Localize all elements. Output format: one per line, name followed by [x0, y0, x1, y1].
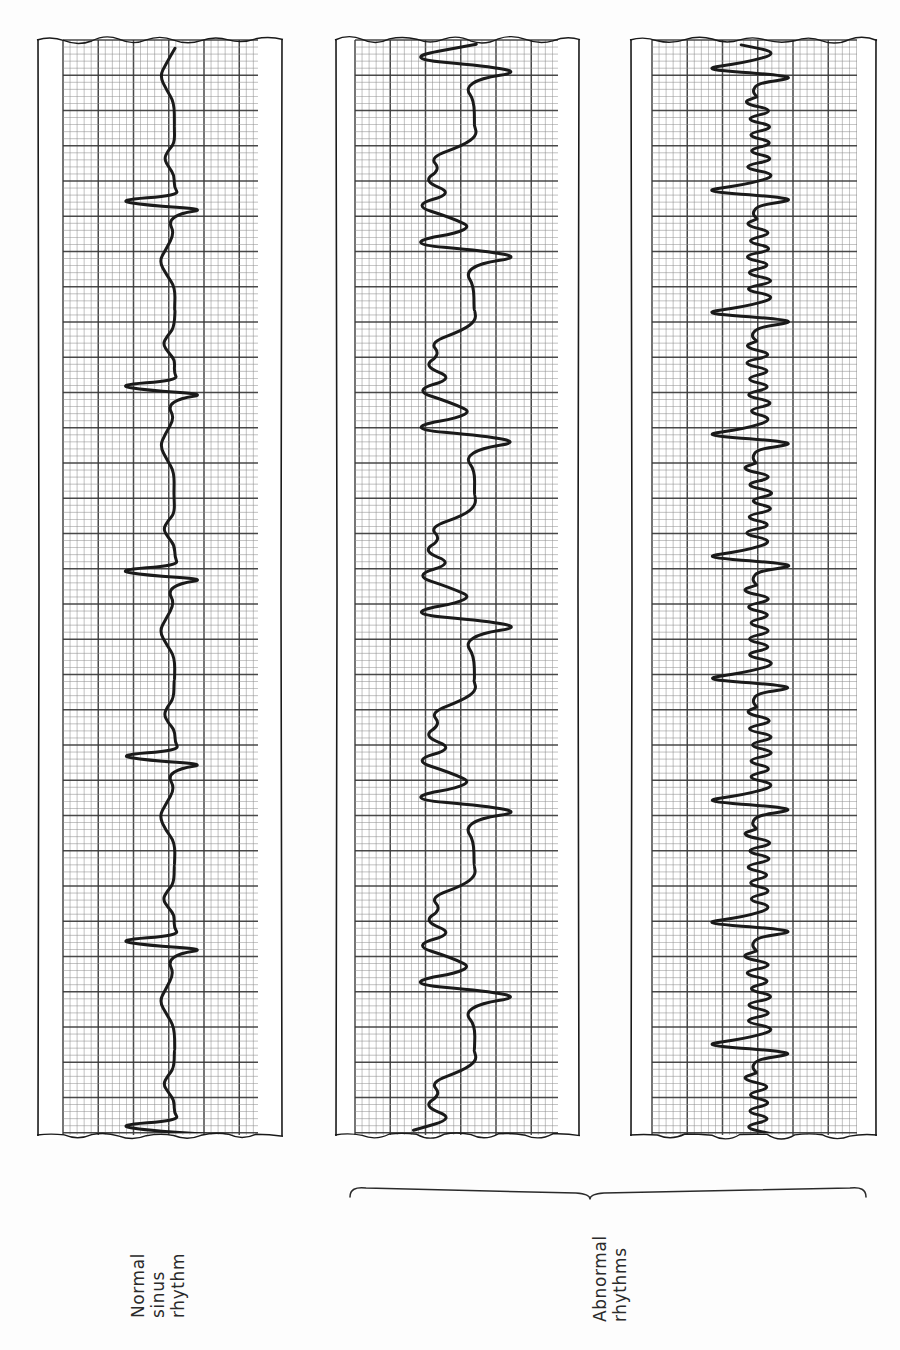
abnormal-rhythms-brace: [350, 1188, 866, 1199]
label-abnormal-line1: Abnormal: [590, 1235, 610, 1322]
ecg-figure-svg: [0, 0, 900, 1350]
ecg-figure-page: Normal sinus rhythm Abnormal rhythms: [0, 0, 900, 1350]
label-abnormal-rhythms: Abnormal rhythms: [590, 1235, 630, 1322]
normal-sinus-rhythm-strip: [37, 36, 283, 1139]
label-normal-sinus-rhythm: Normal sinus rhythm: [128, 1253, 188, 1318]
strip-background: [335, 36, 580, 1139]
label-normal-line3: rhythm: [168, 1253, 188, 1318]
abnormal-rapid-oscillation-strip: [630, 36, 877, 1139]
abnormal-wide-complex-strip: [335, 36, 580, 1139]
label-normal-line2: sinus: [148, 1253, 168, 1318]
label-abnormal-line2: rhythms: [610, 1235, 630, 1322]
label-normal-line1: Normal: [128, 1253, 148, 1318]
